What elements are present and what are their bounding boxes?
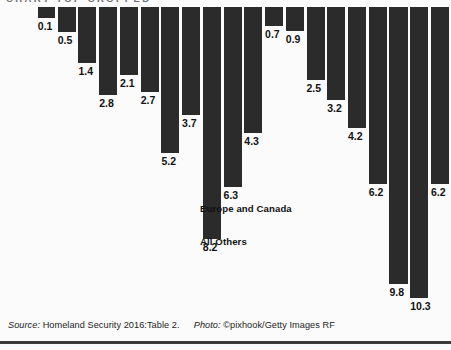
- bar: [224, 7, 242, 187]
- bar: [431, 7, 449, 184]
- cropped-header-text: CHART TOP CROPPED: [6, 0, 152, 4]
- bar: [78, 7, 96, 63]
- bar: [99, 7, 117, 95]
- bar-value-label: 2.1: [120, 78, 135, 89]
- bar: [265, 7, 283, 26]
- bar-value-label: 4.2: [348, 131, 363, 142]
- bar: [182, 7, 200, 115]
- bar-value-label: 6.3: [224, 190, 239, 201]
- bar: [244, 7, 262, 133]
- series-annotation: All Others: [200, 236, 247, 247]
- bar-value-label: 3.7: [182, 118, 197, 129]
- bar-value-label: 2.5: [307, 83, 322, 94]
- photo-label: Photo:: [194, 320, 221, 330]
- credit-line: Source: Homeland Security 2016:Table 2. …: [8, 320, 335, 330]
- bottom-divider-rule: [0, 341, 451, 344]
- series-annotation: Europe and Canada: [200, 203, 292, 214]
- bar: [307, 7, 325, 80]
- bar: [410, 7, 428, 298]
- bar-value-label: 0.7: [265, 29, 280, 40]
- bar: [327, 7, 345, 100]
- bar-value-label: 6.2: [431, 187, 446, 198]
- bar-value-label: 0.9: [286, 34, 301, 45]
- bar-value-label: 2.7: [141, 95, 156, 106]
- source-text: Homeland Security 2016:Table 2.: [43, 320, 180, 330]
- plot-area: 0.10.51.42.82.12.75.23.78.26.34.30.70.92…: [0, 7, 451, 310]
- bar-value-label: 10.3: [410, 301, 430, 312]
- bar: [141, 7, 159, 92]
- bar: [58, 7, 76, 32]
- figure-bar-chart: CHART TOP CROPPED 0.10.51.42.82.12.75.23…: [0, 0, 451, 350]
- bar-value-label: 9.8: [389, 287, 404, 298]
- bar: [120, 7, 138, 75]
- bar-value-label: 1.4: [78, 66, 93, 77]
- bar-value-label: 0.5: [58, 35, 73, 46]
- bar: [286, 7, 304, 31]
- bar-value-label: 0.1: [38, 21, 53, 32]
- photo-text: ©pixhook/Getty Images RF: [223, 320, 335, 330]
- bar-value-label: 6.2: [369, 187, 384, 198]
- bar: [369, 7, 387, 184]
- bar: [38, 7, 55, 18]
- bar-value-label: 5.2: [161, 156, 176, 167]
- bar: [161, 7, 179, 153]
- bar-value-label: 3.2: [327, 103, 342, 114]
- bar-value-label: 4.3: [244, 136, 259, 147]
- source-label: Source:: [8, 320, 40, 330]
- bar: [348, 7, 366, 128]
- cropped-header-strip: CHART TOP CROPPED: [0, 0, 451, 7]
- bar: [389, 7, 407, 284]
- bar-value-label: 2.8: [99, 98, 114, 109]
